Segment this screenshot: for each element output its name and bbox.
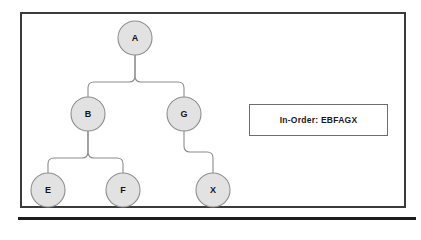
tree-nodes: A B G E F X xyxy=(31,21,230,207)
edge-a-b xyxy=(88,55,135,97)
node-label-g: G xyxy=(180,109,187,119)
edge-b-f xyxy=(88,131,123,173)
tree-node-x[interactable]: X xyxy=(196,173,230,207)
tree-node-a[interactable]: A xyxy=(118,21,152,55)
node-label-f: F xyxy=(120,185,126,195)
edge-g-x xyxy=(184,131,213,173)
node-label-x: X xyxy=(210,185,216,195)
node-label-b: B xyxy=(85,109,92,119)
node-label-e: E xyxy=(45,185,51,195)
bottom-divider-rule xyxy=(18,217,416,220)
tree-node-b[interactable]: B xyxy=(71,97,105,131)
tree-node-f[interactable]: F xyxy=(106,173,140,207)
traversal-result-box: In-Order: EBFAGX xyxy=(249,104,388,136)
edge-b-e xyxy=(48,131,88,173)
tree-node-e[interactable]: E xyxy=(31,173,65,207)
node-label-a: A xyxy=(132,33,139,43)
edge-a-g xyxy=(135,55,184,97)
traversal-result-label: In-Order: EBFAGX xyxy=(280,115,358,125)
tree-node-g[interactable]: G xyxy=(167,97,201,131)
